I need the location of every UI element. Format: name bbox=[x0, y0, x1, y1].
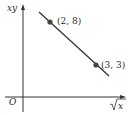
point-2-8 bbox=[47, 19, 52, 24]
y-axis-arrow-icon bbox=[21, 4, 25, 10]
origin-label: O bbox=[9, 97, 17, 107]
point-label-3-3: (3, 3) bbox=[101, 60, 125, 70]
point-label-2-8: (2, 8) bbox=[57, 16, 81, 26]
svg-text:x: x bbox=[118, 101, 123, 111]
graph-diagram: xy (2, 8) (3, 3) O x bbox=[0, 0, 130, 115]
point-3-3 bbox=[93, 62, 98, 67]
y-axis-label: xy bbox=[7, 3, 18, 13]
x-axis-arrow-icon bbox=[120, 95, 126, 99]
x-axis-label: x bbox=[110, 99, 126, 111]
